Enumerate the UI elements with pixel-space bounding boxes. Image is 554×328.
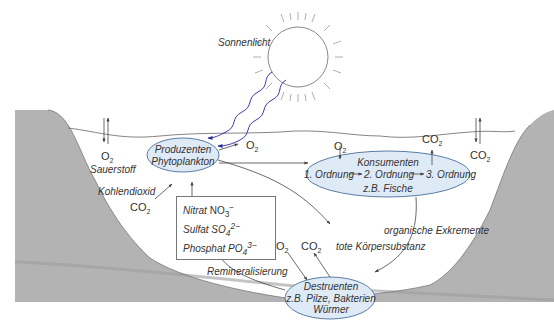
organic-excrements-label: organische Exkremente [384,225,489,237]
nutrient-phosphate: Phosphat PO43− [183,240,257,257]
decomposers-co2-label: CO2 [301,241,321,254]
dead-matter-label: tote Körpersubstanz [336,241,426,253]
producers-label: Produzenten Phytoplankton [150,144,216,167]
decomposers-o2-label: O2 [276,241,288,254]
co2-label: Kohlendioxid [98,186,155,198]
consumers-example: z.B. Fische [348,183,428,195]
light-wave-icon [208,72,286,146]
sun-icon [253,12,343,102]
consumers-co2-label: CO2 [422,134,442,147]
water-surface [68,128,515,137]
right-co2-label: CO2 [470,150,490,163]
producers-o2-label: O2 [246,140,258,153]
left-o2-label: O2 [101,151,113,164]
consumers-order-3: 3. Ordnung [426,169,476,181]
nutrients-box: Nitrat NO3− Sulfat SO42− Phosphat PO43− [176,196,276,260]
remineralization-label: Remineralisierung [207,266,288,278]
sunlight-label: Sonnenlicht [218,37,270,49]
nutrient-nitrate: Nitrat NO3− [183,202,234,219]
consumers-order-2: 2. Ordnung [364,169,414,181]
nutrient-sulfate: Sulfat SO42− [183,221,240,238]
decomposers-label: Destruenten z.B. Pilze, Bakterien Würmer [285,281,377,316]
consumers-o2-label: O2 [334,141,346,154]
consumers-title: Konsumenten [348,157,428,169]
co2-input-formula: CO2 [130,202,150,215]
lake-diagram [0,0,554,328]
consumers-order-1: 1. Ordnung [304,169,354,181]
oxygen-label: Sauerstoff [90,164,136,176]
